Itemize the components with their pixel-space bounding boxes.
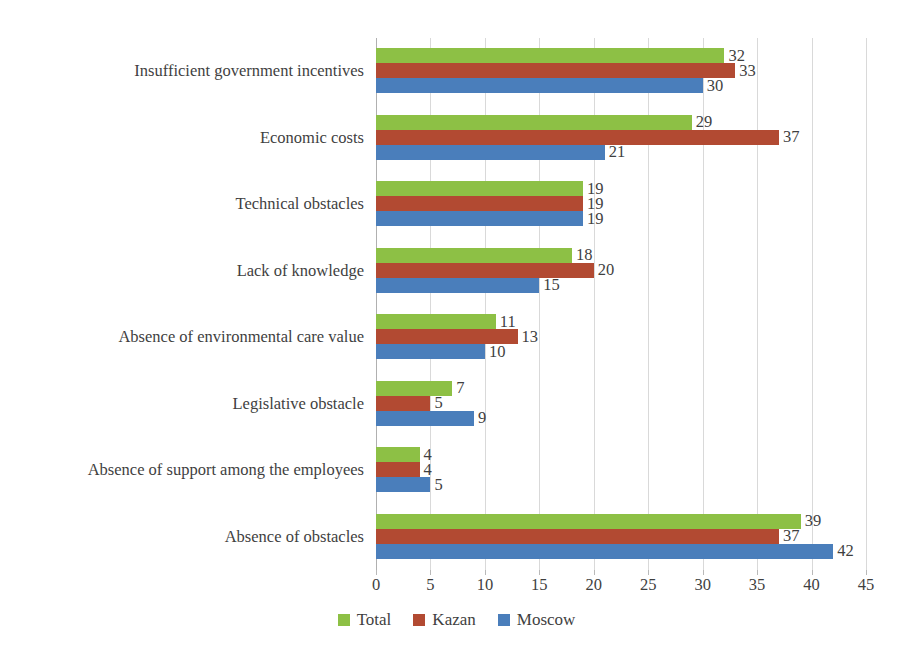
category-label: Lack of knowledge	[237, 261, 364, 281]
bar-kazan: 37	[376, 529, 779, 544]
bar-moscow: 5	[376, 477, 430, 492]
chart-legend: TotalKazanMoscow	[0, 610, 913, 630]
legend-swatch-icon	[498, 614, 510, 626]
bar-value-label: 37	[783, 127, 800, 147]
category-row: Absence of environmental care value11131…	[376, 304, 866, 371]
x-tick-label: 25	[640, 575, 657, 595]
legend-item-total[interactable]: Total	[338, 610, 392, 630]
bar-moscow: 42	[376, 544, 833, 559]
bar-chart: Insufficient government incentives323330…	[0, 0, 913, 672]
x-tick-label: 10	[477, 575, 494, 595]
legend-swatch-icon	[413, 614, 425, 626]
legend-swatch-icon	[338, 614, 350, 626]
category-label: Absence of obstacles	[225, 527, 364, 547]
bar-kazan: 5	[376, 396, 430, 411]
bar-kazan: 4	[376, 462, 420, 477]
category-row: Legislative obstacle759	[376, 371, 866, 438]
bar-kazan: 37	[376, 130, 779, 145]
category-row: Economic costs293721	[376, 105, 866, 172]
cropped-title-remnant	[0, 0, 913, 8]
bar-moscow: 10	[376, 344, 485, 359]
x-tick-label: 40	[803, 575, 820, 595]
gridline	[866, 38, 867, 570]
bar-kazan: 19	[376, 196, 583, 211]
legend-label: Total	[357, 610, 392, 630]
category-label: Technical obstacles	[236, 194, 365, 214]
x-tick-label: 35	[749, 575, 766, 595]
bar-total: 19	[376, 181, 583, 196]
bar-value-label: 30	[707, 75, 724, 95]
bar-value-label: 13	[522, 326, 539, 346]
category-row: Insufficient government incentives323330	[376, 38, 866, 105]
legend-item-moscow[interactable]: Moscow	[498, 610, 576, 630]
bar-total: 18	[376, 248, 572, 263]
category-row: Absence of obstacles393742	[376, 504, 866, 571]
legend-label: Moscow	[517, 610, 576, 630]
x-tick-label: 15	[531, 575, 548, 595]
category-row: Technical obstacles191919	[376, 171, 866, 238]
bar-value-label: 5	[434, 474, 442, 494]
bar-value-label: 7	[456, 378, 464, 398]
x-tick-label: 0	[372, 575, 380, 595]
bar-kazan: 33	[376, 63, 735, 78]
plot-area: Insufficient government incentives323330…	[376, 38, 866, 570]
legend-label: Kazan	[432, 610, 475, 630]
bar-moscow: 15	[376, 278, 539, 293]
bar-total: 32	[376, 48, 724, 63]
bar-total: 11	[376, 314, 496, 329]
x-tick-label: 30	[694, 575, 711, 595]
category-row: Absence of support among the employees44…	[376, 437, 866, 504]
bar-value-label: 9	[478, 408, 486, 428]
bar-moscow: 9	[376, 411, 474, 426]
category-label: Insufficient government incentives	[134, 61, 364, 81]
legend-item-kazan[interactable]: Kazan	[413, 610, 475, 630]
x-axis-tick-labels: 051015202530354045	[376, 575, 866, 599]
x-tick-label: 5	[426, 575, 434, 595]
bar-value-label: 42	[837, 541, 854, 561]
category-row: Lack of knowledge182015	[376, 238, 866, 305]
bar-value-label: 21	[609, 142, 626, 162]
bar-moscow: 21	[376, 145, 605, 160]
bar-total: 29	[376, 115, 692, 130]
bar-value-label: 15	[543, 275, 560, 295]
bar-value-label: 20	[598, 260, 615, 280]
category-label: Economic costs	[260, 128, 364, 148]
bar-kazan: 20	[376, 263, 594, 278]
bar-moscow: 30	[376, 78, 703, 93]
category-label: Absence of environmental care value	[118, 327, 364, 347]
bar-moscow: 19	[376, 211, 583, 226]
bar-value-label: 19	[587, 208, 604, 228]
bar-value-label: 39	[805, 511, 822, 531]
x-tick-label: 45	[858, 575, 875, 595]
category-label: Absence of support among the employees	[88, 460, 364, 480]
bar-value-label: 33	[739, 60, 756, 80]
category-label: Legislative obstacle	[233, 394, 365, 414]
bar-value-label: 10	[489, 341, 506, 361]
bar-total: 4	[376, 447, 420, 462]
x-tick-label: 20	[586, 575, 603, 595]
bar-total: 39	[376, 514, 801, 529]
